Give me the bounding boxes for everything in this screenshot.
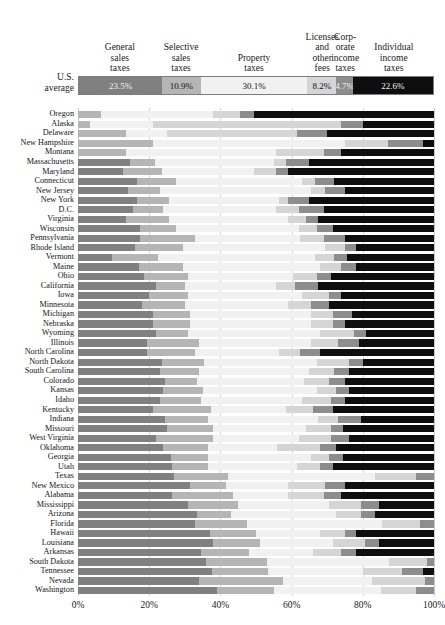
bar-segment-corporate_income <box>313 406 333 413</box>
chart-row <box>78 197 434 204</box>
bar-segment-licenses_fees <box>288 301 311 308</box>
bar-segment-corporate_income <box>317 273 331 280</box>
chart-row <box>78 520 434 527</box>
avg-segment-property: 30.1% <box>201 77 308 94</box>
bar-segment-licenses_fees <box>274 159 286 166</box>
state-label: Ohio <box>58 272 74 280</box>
bar-segment-licenses_fees <box>288 482 325 489</box>
bar-segment-corporate_income <box>306 216 318 223</box>
state-label: Oregon <box>49 110 74 118</box>
bar-segment-property <box>158 254 315 261</box>
legend-label-line: Property <box>200 53 307 64</box>
bar-segment-individual_income <box>329 301 434 308</box>
state-label: Michigan <box>43 310 74 318</box>
bar-segment-selective_sales <box>139 263 184 270</box>
legend-label-line: taxes <box>354 63 434 74</box>
chart-row <box>78 416 434 423</box>
state-label: Nebraska <box>43 320 74 328</box>
bar-segment-corporate_income <box>324 492 342 499</box>
bar-segment-general_sales <box>78 568 212 575</box>
bar-segment-corporate_income <box>320 444 336 451</box>
avg-segment-licenses_fees: 8.2% <box>307 77 336 94</box>
legend-label-line: Selective <box>158 42 204 53</box>
chart-row <box>78 501 434 508</box>
bar-segment-corporate_income <box>334 254 346 261</box>
chart-row <box>78 368 434 375</box>
bar-segment-corporate_income <box>325 187 345 194</box>
bar-segment-individual_income <box>254 111 434 118</box>
state-label: New Hampshire <box>21 139 74 147</box>
bar-segment-property <box>197 378 304 385</box>
bar-segment-property <box>185 282 276 289</box>
bar-segment-selective_sales <box>210 530 256 537</box>
bar-segment-corporate_income <box>329 378 345 385</box>
bar-segment-corporate_income <box>311 301 329 308</box>
bar-segment-individual_income <box>309 197 434 204</box>
state-label: Arkansas <box>44 548 74 556</box>
bar-segment-licenses_fees <box>372 577 425 584</box>
bar-segment-general_sales <box>78 530 210 537</box>
bar-segment-individual_income <box>318 216 434 223</box>
chart-row <box>78 435 434 442</box>
bar-segment-licenses_fees <box>320 530 345 537</box>
bar-segment-general_sales <box>78 501 188 508</box>
legend-label-individual_income: Individualincometaxes <box>354 42 434 74</box>
bar-segment-individual_income <box>341 292 434 299</box>
bar-segment-corporate_income <box>334 368 348 375</box>
chart-row <box>78 216 434 223</box>
x-tick-60: 60% <box>283 600 300 610</box>
bar-segment-corporate_income <box>324 235 345 242</box>
bar-segment-selective_sales <box>195 520 247 527</box>
bar-segment-property <box>208 444 277 451</box>
bar-segment-general_sales <box>78 406 153 413</box>
bar-segment-licenses_fees <box>293 273 316 280</box>
bar-segment-property <box>185 301 288 308</box>
bar-segment-corporate_income <box>388 140 424 147</box>
bar-segment-licenses_fees <box>317 359 349 366</box>
chart-row <box>78 206 434 213</box>
bar-segment-individual_income <box>334 178 434 185</box>
bar-segment-individual_income <box>309 159 434 166</box>
bar-segment-general_sales <box>78 320 153 327</box>
bar-segment-general_sales <box>78 282 156 289</box>
bar-segment-selective_sales <box>140 235 195 242</box>
bar-segment-selective_sales <box>199 577 283 584</box>
bar-segment-licenses_fees <box>320 330 354 337</box>
bar-segment-individual_income <box>349 435 434 442</box>
bar-segment-individual_income <box>352 311 434 318</box>
state-label: Kansas <box>50 386 74 394</box>
chart-row <box>78 587 434 594</box>
bar-segment-selective_sales <box>201 549 249 556</box>
state-label: West Virginia <box>29 434 74 442</box>
bar-segment-property <box>190 320 311 327</box>
bar-segment-general_sales <box>78 482 190 489</box>
bar-segment-property <box>188 330 320 337</box>
bar-segment-general_sales <box>78 330 156 337</box>
chart-row <box>78 187 434 194</box>
chart-row <box>78 539 434 546</box>
legend-label-line: taxes <box>78 63 162 74</box>
bar-segment-general_sales <box>78 359 162 366</box>
bar-segment-licenses_fees <box>302 397 330 404</box>
bar-segment-property <box>101 111 213 118</box>
bar-segment-selective_sales <box>112 254 158 261</box>
bar-segment-selective_sales <box>153 406 212 413</box>
bar-segment-individual_income <box>345 482 434 489</box>
bar-segment-individual_income <box>356 549 434 556</box>
bar-segment-corporate_income <box>240 111 254 118</box>
bar-segment-licenses_fees <box>279 197 288 204</box>
bar-segment-corporate_income <box>315 178 335 185</box>
bar-segment-corporate_income <box>341 263 355 270</box>
state-label: Connecticut <box>34 177 74 185</box>
bar-segment-individual_income <box>333 406 434 413</box>
bar-segment-individual_income <box>349 387 434 394</box>
state-label: Virginia <box>47 215 74 223</box>
bar-segment-licenses_fees <box>297 463 320 470</box>
bar-segment-individual_income <box>423 140 434 147</box>
legend-label-line: sales <box>78 53 162 64</box>
bar-segment-individual_income <box>336 444 434 451</box>
state-label: Alabama <box>44 491 74 499</box>
state-label: Wyoming <box>42 329 74 337</box>
legend-label-line: Corp- <box>322 32 368 43</box>
bar-segment-property <box>188 292 302 299</box>
